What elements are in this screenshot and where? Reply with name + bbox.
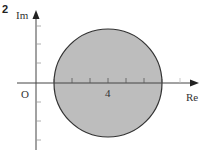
real-axis-label: Re — [186, 91, 198, 103]
imaginary-axis — [33, 10, 42, 150]
argand-diagram: 2 Im Re O 4 — [0, 0, 209, 151]
tick-label-4: 4 — [105, 87, 111, 99]
origin-label: O — [21, 88, 29, 100]
imaginary-axis-arrow-icon — [33, 10, 40, 19]
real-axis-arrow-icon — [190, 80, 199, 87]
question-number: 2 — [2, 3, 8, 15]
imaginary-axis-label: Im — [16, 9, 29, 21]
